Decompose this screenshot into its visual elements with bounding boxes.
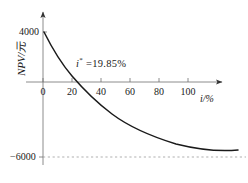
- x-tick-label-0: 0: [33, 87, 53, 97]
- x-tick-label-60: 60: [120, 87, 140, 97]
- irr-value: =19.85%: [86, 58, 126, 69]
- x-tick-label-40: 40: [91, 87, 111, 97]
- y-tick-label-4000: 4000: [19, 27, 39, 37]
- npv-irr-chart: NPV/元 4000 −6000 0 20 40 60 80 100 i/% i…: [0, 0, 248, 183]
- y-axis-title: NPV/元: [16, 42, 27, 76]
- x-axis-title: i/%: [200, 94, 214, 104]
- y-tick-label-minus-6000: −6000: [10, 152, 36, 162]
- x-tick-label-80: 80: [149, 87, 169, 97]
- x-tick-label-20: 20: [62, 87, 82, 97]
- irr-annotation: i* =19.85%: [76, 57, 126, 69]
- x-tick-label-100: 100: [178, 87, 198, 97]
- x-axis-ticks: [43, 78, 188, 82]
- irr-superscript: *: [79, 56, 83, 64]
